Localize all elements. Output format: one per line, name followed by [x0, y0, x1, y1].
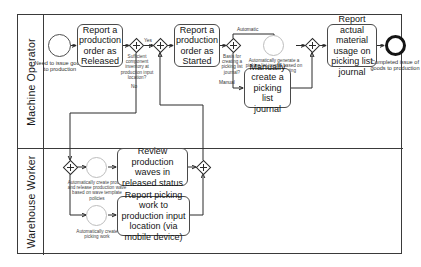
task-manually-create-picking-list-journal: Manually create a picking list journal [244, 68, 291, 108]
task-review-production-waves: Review production waves in released stat… [117, 148, 188, 186]
task-report-production-order-released: Report a production order as Released [77, 24, 123, 67]
flow-label-manual: Manual [219, 80, 235, 85]
task-report-production-order-started: Report a production order as Started [174, 24, 220, 67]
lane-header-warehouse-worker: Warehouse Worker [18, 148, 44, 255]
flow-label-automatic: Automatic [237, 27, 258, 32]
start-event-need-to-issue-goods [48, 34, 71, 57]
gateway-cross-icon [132, 41, 141, 50]
event-auto-generate-picking-list-journal [263, 35, 284, 56]
gateway-cross-icon [308, 41, 317, 50]
flow-label-no: No [131, 84, 137, 89]
gateway-cross-icon [156, 41, 165, 50]
event-auto-create-picking-work [86, 205, 107, 226]
lane-header-machine-operator: Machine Operator [18, 15, 44, 148]
gateway-sufficient-inventory-label: Sufficient component inventory at produc… [119, 54, 155, 80]
event-auto-create-production-wave [86, 157, 107, 178]
flow-label-yes: Yes [144, 38, 152, 43]
lane-label-machine-operator: Machine Operator [25, 38, 37, 125]
end-event-completed-issue-of-goods [385, 35, 406, 56]
event-auto-create-work-label: Automatically create picking work [70, 229, 124, 239]
end-event-label: Completed issue of goods to production [369, 59, 421, 71]
gateway-cross-icon [229, 41, 238, 50]
gateway-cross-icon [199, 163, 208, 172]
task-report-picking-work: Report picking work to production input … [117, 196, 190, 236]
gateway-basis-label: Basis for creating a picking list journa… [219, 54, 245, 75]
lane-divider [18, 148, 403, 149]
gateway-cross-icon [66, 163, 75, 172]
lane-label-warehouse-worker: Warehouse Worker [25, 155, 37, 248]
